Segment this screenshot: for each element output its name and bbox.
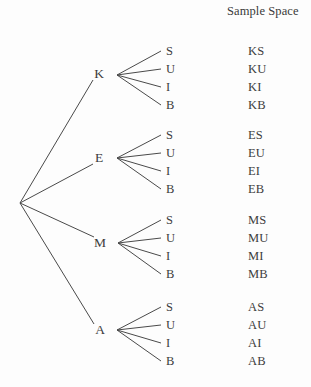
outcome-mu: MU	[248, 232, 269, 245]
outcome-eu: EU	[248, 147, 265, 160]
edge-k-to-b	[117, 75, 161, 105]
outcome-es: ES	[248, 129, 263, 142]
edge-e-to-s	[117, 135, 161, 158]
leaf-label-a-b: B	[166, 355, 178, 368]
outcome-as: AS	[248, 301, 264, 314]
tree-diagram-canvas: Sample Space KSKSUKUIKIBKBESESUEUIEIBEBM…	[0, 0, 311, 387]
edge-root-to-e	[20, 164, 93, 203]
leaf-label-e-u: U	[166, 147, 178, 160]
edge-root-to-k	[20, 80, 93, 203]
edge-k-to-u	[117, 69, 161, 75]
node-level1-e: E	[92, 151, 106, 164]
node-level1-k: K	[92, 67, 106, 80]
edge-a-to-u	[117, 325, 161, 330]
outcome-kb: KB	[248, 99, 266, 112]
leaf-label-m-s: S	[166, 214, 178, 227]
edge-a-to-s	[117, 307, 161, 330]
leaf-label-e-i: I	[166, 165, 178, 178]
edge-root-to-m	[20, 203, 94, 237]
outcome-ei: EI	[248, 165, 260, 178]
edge-root-to-a	[20, 203, 94, 324]
leaf-label-m-b: B	[166, 268, 178, 281]
leaf-label-k-b: B	[166, 99, 178, 112]
leaf-label-m-i: I	[166, 250, 178, 263]
leaf-label-a-i: I	[166, 337, 178, 350]
outcome-ai: AI	[248, 337, 262, 350]
edge-k-to-i	[117, 75, 161, 87]
edge-m-to-b	[118, 243, 161, 274]
node-level1-a: A	[93, 323, 107, 336]
edge-a-to-i	[117, 330, 161, 343]
outcome-ab: AB	[248, 355, 266, 368]
leaf-label-a-s: S	[166, 301, 178, 314]
node-level1-m: M	[93, 236, 107, 249]
edge-e-to-u	[117, 153, 161, 158]
outcome-mb: MB	[248, 268, 268, 281]
leaf-label-k-i: I	[166, 81, 178, 94]
edge-e-to-b	[117, 158, 161, 189]
outcome-ks: KS	[248, 45, 264, 58]
edge-e-to-i	[117, 158, 161, 171]
edge-a-to-b	[117, 330, 161, 361]
edge-m-to-s	[118, 220, 161, 243]
leaf-label-e-s: S	[166, 129, 178, 142]
leaf-label-a-u: U	[166, 319, 178, 332]
outcome-mi: MI	[248, 250, 264, 263]
outcome-eb: EB	[248, 183, 264, 196]
outcome-ms: MS	[248, 214, 266, 227]
leaf-label-k-s: S	[166, 45, 178, 58]
leaf-label-k-u: U	[166, 63, 178, 76]
edge-m-to-u	[118, 238, 161, 243]
outcome-ku: KU	[248, 63, 266, 76]
edge-k-to-s	[117, 51, 161, 75]
leaf-label-e-b: B	[166, 183, 178, 196]
outcome-ki: KI	[248, 81, 262, 94]
edge-m-to-i	[118, 243, 161, 256]
leaf-label-m-u: U	[166, 232, 178, 245]
outcome-au: AU	[248, 319, 266, 332]
sample-space-header: Sample Space	[227, 4, 299, 19]
